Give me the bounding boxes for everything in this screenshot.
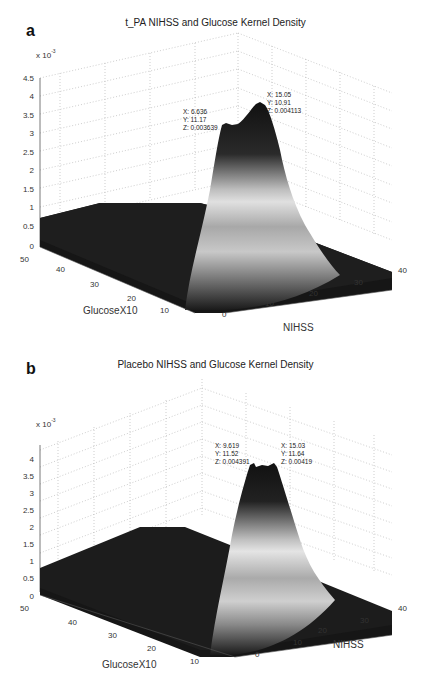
svg-text:Y: 11.64: Y: 11.64 — [281, 450, 305, 457]
z-tick: 3.5 — [23, 111, 35, 120]
nihss-tick: 30 — [354, 278, 363, 287]
svg-text:Z: 0.004113: Z: 0.004113 — [267, 107, 302, 114]
glucose-tick: 40 — [56, 265, 65, 274]
nihss-tick: 10 — [293, 638, 302, 647]
z-tick: 1 — [30, 203, 35, 212]
panel-b-chart: b Placebo NIHSS and Glucose Kernel Densi… — [0, 355, 431, 680]
nihss-tick: 0 — [255, 650, 260, 659]
nihss-tick: 30 — [360, 616, 369, 625]
z-tick: 0 — [30, 242, 35, 251]
svg-text:Y: 11.52: Y: 11.52 — [215, 450, 239, 457]
svg-text:Z: 0.003639: Z: 0.003639 — [183, 124, 218, 131]
z-tick: 3.5 — [23, 472, 35, 481]
svg-text:Z: 0.00419: Z: 0.00419 — [281, 458, 312, 465]
svg-text:X: 6.636: X: 6.636 — [183, 108, 208, 115]
z-tick: 1.5 — [23, 540, 35, 549]
glucose-tick: 50 — [20, 604, 29, 613]
svg-text:X: 15.05: X: 15.05 — [267, 91, 292, 98]
datatip-2: X: 15.03 Y: 11.64 Z: 0.00419 — [281, 442, 312, 465]
glucose-tick: 30 — [108, 631, 117, 640]
svg-text:Y: 10.91: Y: 10.91 — [267, 99, 291, 106]
z-tick: 4 — [30, 455, 35, 464]
nihss-axis-label: NIHSS — [283, 322, 314, 333]
z-tick: 2 — [30, 523, 35, 532]
z-tick: 0 — [30, 592, 35, 601]
nihss-tick: 40 — [398, 266, 407, 275]
glucose-tick: 50 — [20, 255, 29, 264]
nihss-tick: 20 — [318, 626, 327, 635]
z-tick: 1 — [30, 557, 35, 566]
datatip-1: X: 9.619 Y: 11.52 Z: 0.004391 — [215, 442, 250, 465]
svg-text:X: 9.619: X: 9.619 — [215, 442, 240, 449]
glucose-tick: 20 — [127, 294, 136, 303]
nihss-tick: 10 — [265, 299, 274, 308]
z-multiplier: x 10-3 — [36, 48, 56, 60]
glucose-tick: 20 — [147, 644, 156, 653]
nihss-tick: 20 — [309, 289, 318, 298]
z-tick: 0.5 — [23, 574, 35, 583]
glucose-tick: 30 — [90, 280, 99, 289]
z-tick: 3 — [30, 129, 35, 138]
z-tick: 2 — [30, 166, 35, 175]
svg-text:Z: 0.004391: Z: 0.004391 — [215, 458, 250, 465]
surface-plot: x 10-3 4.5 4 3.5 3 2.5 2 1.5 1 0.5 0 — [0, 0, 431, 340]
svg-text:Y: 11.17: Y: 11.17 — [183, 116, 207, 123]
surface-plot: x 10-3 4 3.5 3 2.5 2 1.5 1 0.5 0 50 40 — [0, 355, 431, 680]
glucose-tick: 40 — [68, 618, 77, 627]
z-tick: 4.5 — [23, 74, 35, 83]
glucose-tick: 10 — [190, 657, 199, 666]
nihss-tick: 40 — [398, 604, 407, 613]
glucose-axis-label: GlucoseX10 — [83, 305, 138, 316]
nihss-tick: 0 — [222, 310, 227, 319]
glucose-axis-label: GlucoseX10 — [102, 659, 157, 670]
nihss-axis-label: NIHSS — [333, 639, 364, 650]
z-tick: 3 — [30, 489, 35, 498]
z-tick: 4 — [30, 92, 35, 101]
z-tick: 2.5 — [23, 506, 35, 515]
surface — [40, 463, 392, 657]
z-multiplier: x 10-3 — [36, 417, 56, 429]
datatip-2: X: 15.05 Y: 10.91 Z: 0.004113 — [267, 91, 302, 114]
z-tick: 2.5 — [23, 148, 35, 157]
z-tick: 0.5 — [23, 222, 35, 231]
glucose-tick: 10 — [160, 306, 169, 315]
svg-text:X: 15.03: X: 15.03 — [281, 442, 306, 449]
z-tick: 1.5 — [23, 185, 35, 194]
panel-a-chart: a t_PA NIHSS and Glucose Kernel Density — [0, 0, 431, 340]
